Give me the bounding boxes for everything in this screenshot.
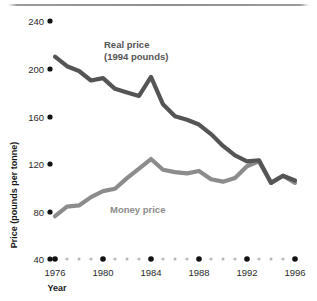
x-minor-dot-1986 <box>174 258 177 261</box>
y-tick-label-240: 240 <box>28 16 44 27</box>
x-axis-title: Year <box>47 283 67 293</box>
y-tick-dot-80 <box>47 209 52 214</box>
y-axis-title: Price (pounds per tonne) <box>9 142 19 249</box>
y-axis-tick-dots <box>47 18 52 261</box>
real-price-annotation: Real price (1994 pounds) <box>104 39 168 62</box>
x-minor-dot-1994 <box>270 258 273 261</box>
x-minor-dot-1977 <box>66 258 69 261</box>
x-minor-dot-1981 <box>114 258 117 261</box>
x-minor-dot-1990 <box>222 258 225 261</box>
x-tick-dot-1976 <box>52 256 58 262</box>
x-minor-dot-1978 <box>78 258 81 261</box>
real-price-label-line1: Real price <box>104 39 149 50</box>
y-axis-tick-labels: 240 200 160 120 80 40 <box>28 16 44 265</box>
x-tick-label-1988: 1988 <box>188 267 209 278</box>
x-tick-dot-1996 <box>292 256 298 262</box>
x-minor-dot-1989 <box>210 258 213 261</box>
real-price-line <box>55 57 295 183</box>
x-minor-dot-1991 <box>234 258 237 261</box>
price-line-chart: 240 200 160 120 80 40 <box>0 0 317 301</box>
x-minor-dot-1987 <box>186 258 189 261</box>
x-minor-dot-1995 <box>282 258 285 261</box>
x-minor-dot-1985 <box>162 258 165 261</box>
x-tick-label-1984: 1984 <box>140 267 161 278</box>
x-minor-dot-1982 <box>126 258 129 261</box>
y-tick-label-160: 160 <box>28 112 44 123</box>
x-tick-dot-1992 <box>244 256 250 262</box>
x-tick-label-1976: 1976 <box>44 267 65 278</box>
y-tick-label-40: 40 <box>33 254 44 265</box>
y-tick-dot-240 <box>47 18 52 23</box>
x-axis-tick-labels: 1976 1980 1984 1988 1992 1996 <box>44 267 305 278</box>
x-axis-minor-dots <box>66 258 285 261</box>
chart-figure: 240 200 160 120 80 40 <box>0 0 317 301</box>
y-tick-dot-200 <box>47 66 52 71</box>
money-price-label: Money price <box>110 204 165 215</box>
x-minor-dot-1993 <box>258 258 261 261</box>
x-tick-label-1992: 1992 <box>236 267 257 278</box>
x-tick-label-1996: 1996 <box>284 267 305 278</box>
real-price-label-line2: (1994 pounds) <box>104 51 168 62</box>
x-tick-label-1980: 1980 <box>92 267 113 278</box>
y-tick-dot-160 <box>47 114 52 119</box>
x-tick-dot-1980 <box>100 256 106 262</box>
y-tick-label-200: 200 <box>28 64 44 75</box>
money-price-line <box>55 159 295 216</box>
y-tick-label-120: 120 <box>28 159 44 170</box>
y-tick-dot-40 <box>47 256 52 261</box>
x-tick-dot-1984 <box>148 256 154 262</box>
x-minor-dot-1983 <box>138 258 141 261</box>
x-minor-dot-1979 <box>90 258 93 261</box>
y-tick-dot-120 <box>47 161 52 166</box>
x-tick-dot-1988 <box>196 256 202 262</box>
y-tick-label-80: 80 <box>33 207 44 218</box>
